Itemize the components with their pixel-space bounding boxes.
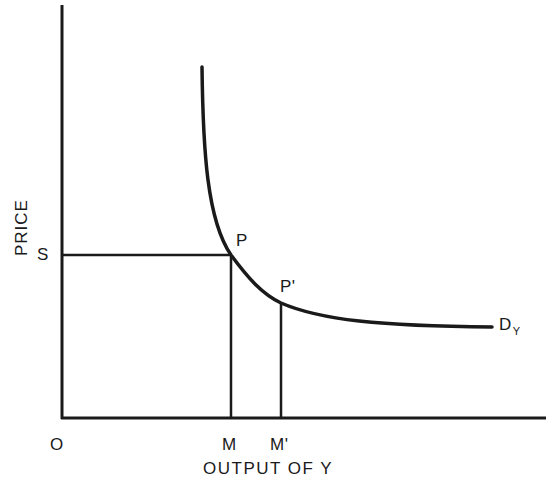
curve-label-dy: DY [499, 316, 521, 333]
y-axis-label: PRICE [12, 199, 32, 256]
point-label-p-prime: P' [280, 278, 296, 295]
origin-label: O [50, 436, 64, 453]
demand-curve-dy [202, 67, 492, 327]
quantity-marker-m: M [222, 436, 237, 453]
curve-label-main: D [499, 315, 512, 334]
diagram-canvas [0, 0, 547, 480]
x-axis-label: OUTPUT OF Y [203, 460, 333, 477]
quantity-marker-m-prime: M' [270, 436, 288, 453]
point-label-p: P [236, 232, 248, 249]
curve-label-subscript: Y [513, 325, 521, 337]
price-marker-s: S [37, 246, 49, 263]
